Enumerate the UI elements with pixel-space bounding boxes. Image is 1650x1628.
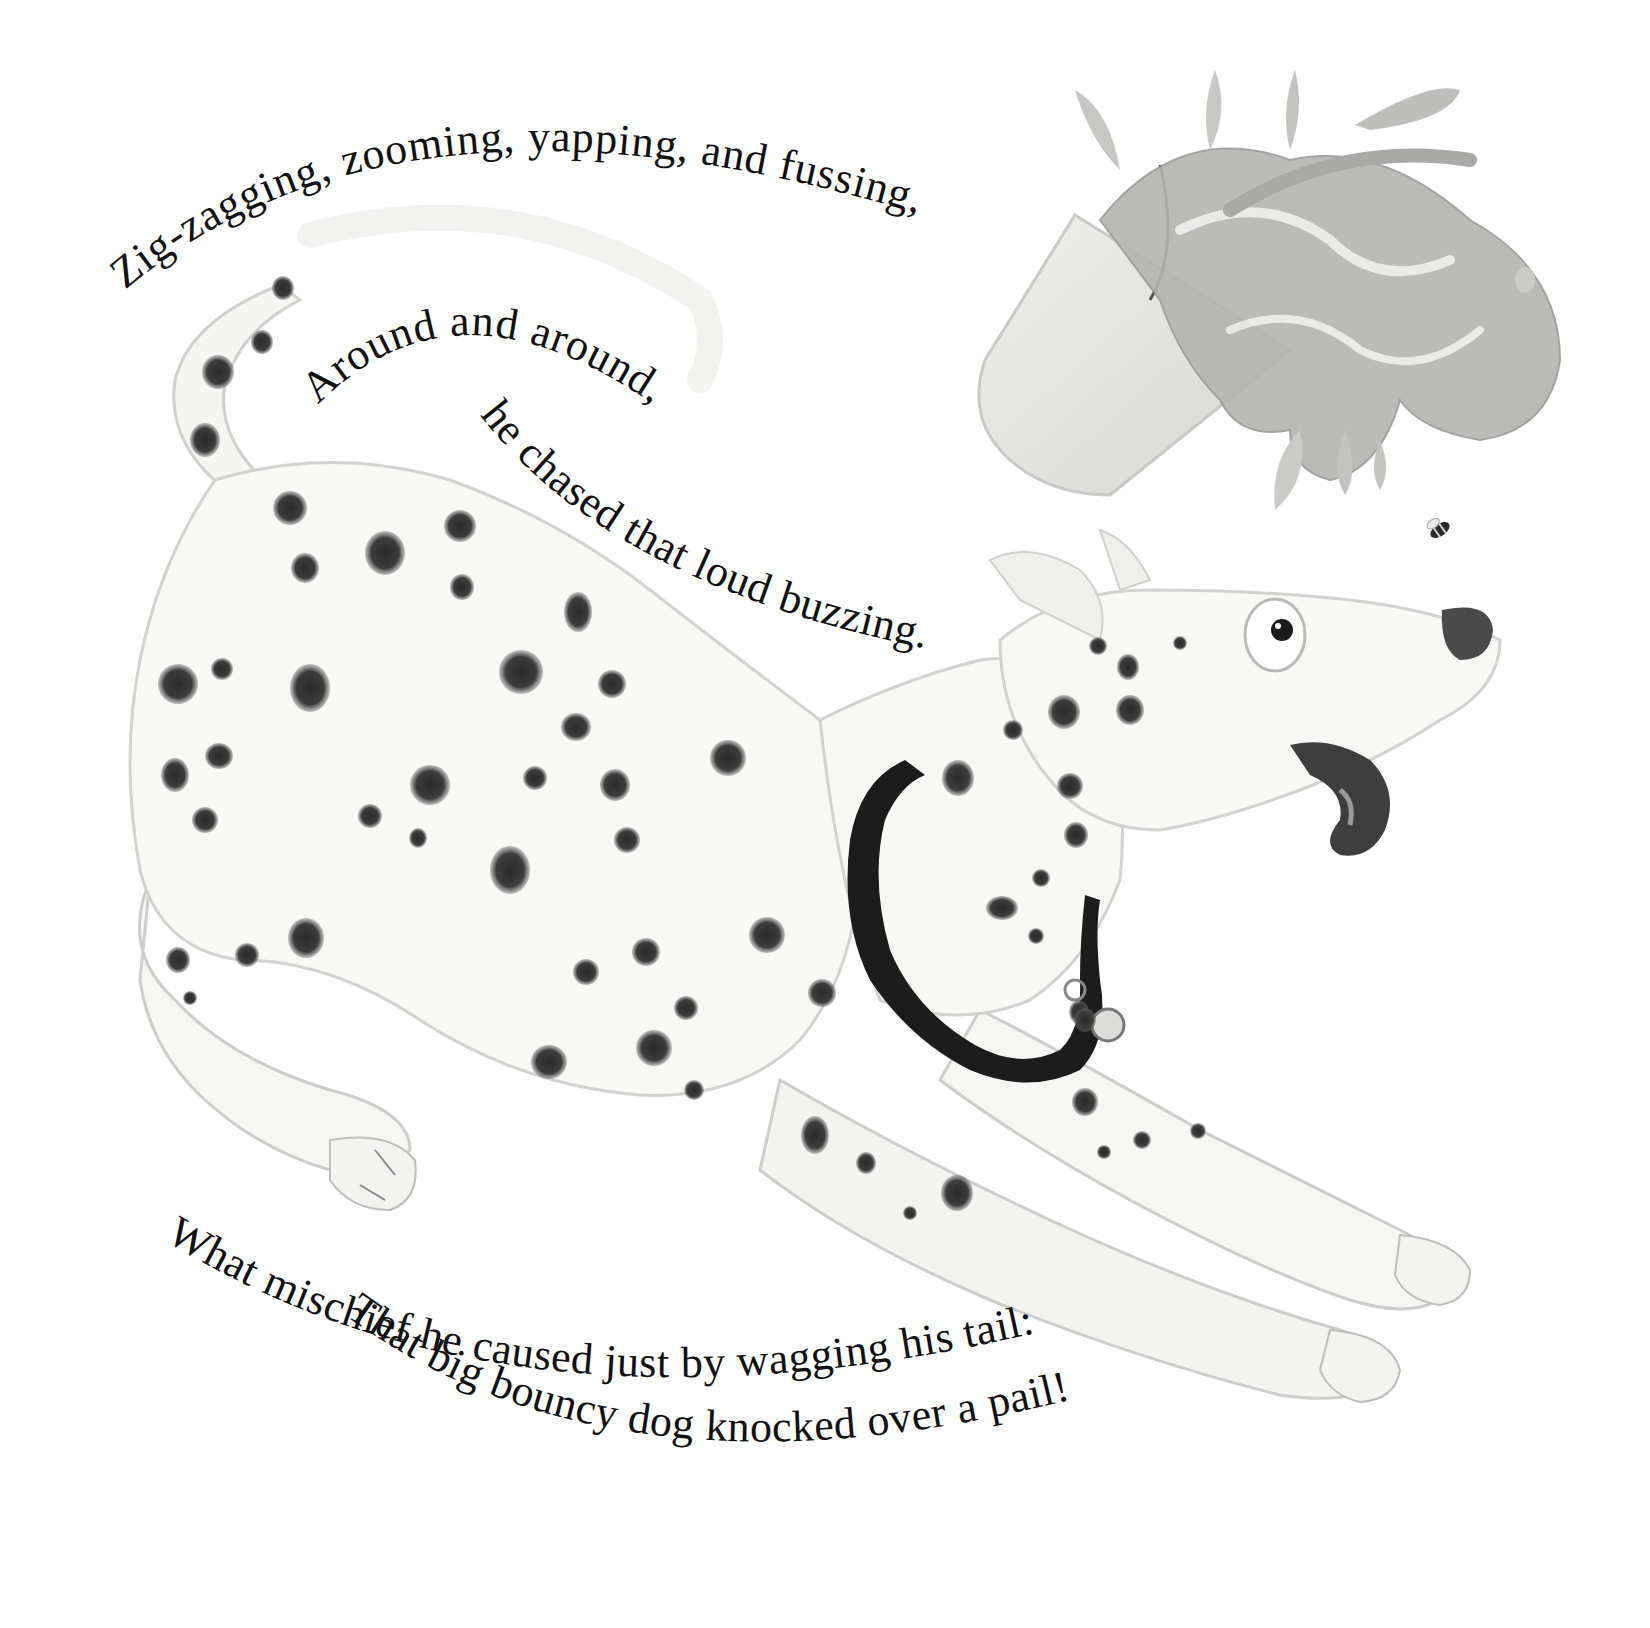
dog-body (130, 463, 862, 1096)
verse-line-1: Zig-zagging, zooming, yapping, and fussi… (100, 112, 929, 298)
bee-icon (1424, 513, 1453, 541)
illustration: Zig-zagging, zooming, yapping, and fussi… (0, 0, 1650, 1628)
dog-eye-icon (1245, 599, 1305, 671)
dog-paw (330, 1138, 416, 1211)
dog-mouth-icon (1290, 742, 1390, 856)
book-page: Zig-zagging, zooming, yapping, and fussi… (0, 0, 1650, 1628)
verse-line-2: Around and around, (292, 296, 676, 413)
